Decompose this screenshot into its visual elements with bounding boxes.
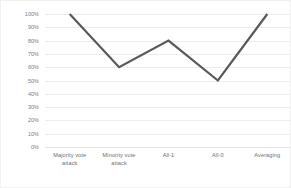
x-axis-tick-label: All-0 (191, 151, 245, 159)
x-axis-tick-line1: Minority vote (92, 151, 146, 159)
x-axis-tick-line1: All-0 (191, 151, 245, 159)
x-axis-tick-label: Majority vote attack (43, 151, 97, 167)
x-axis-tick-line2: attack (92, 159, 146, 167)
y-axis-tick-label: 50% (28, 78, 39, 84)
data-series-line (45, 14, 291, 147)
y-axis-tick-label: 20% (28, 117, 39, 123)
y-axis-tick-label: 80% (28, 38, 39, 44)
y-axis-tick-label: 100% (25, 11, 39, 17)
x-axis: Majority vote attack Minority vote attac… (45, 151, 291, 185)
axis-baseline (45, 147, 291, 148)
x-axis-tick-label: Averaging (240, 151, 291, 159)
y-axis: 100% 90% 80% 70% 60% 50% 40% 30% 20% 10%… (1, 14, 42, 147)
y-axis-tick-label: 30% (28, 104, 39, 110)
x-axis-tick-line1: Majority vote (43, 151, 97, 159)
x-axis-tick-line2: attack (43, 159, 97, 167)
x-axis-tick-label: Minority vote attack (92, 151, 146, 167)
line-chart: 100% 90% 80% 70% 60% 50% 40% 30% 20% 10%… (0, 0, 291, 188)
x-axis-tick-line1: Averaging (240, 151, 291, 159)
y-axis-tick-label: 40% (28, 91, 39, 97)
y-axis-tick-label: 0% (31, 144, 39, 150)
x-axis-tick-label: All-1 (142, 151, 196, 159)
y-axis-tick-label: 90% (28, 24, 39, 30)
y-axis-tick-label: 70% (28, 51, 39, 57)
y-axis-tick-label: 10% (28, 131, 39, 137)
x-axis-tick-line1: All-1 (142, 151, 196, 159)
y-axis-tick-label: 60% (28, 64, 39, 70)
plot-area (45, 14, 291, 147)
